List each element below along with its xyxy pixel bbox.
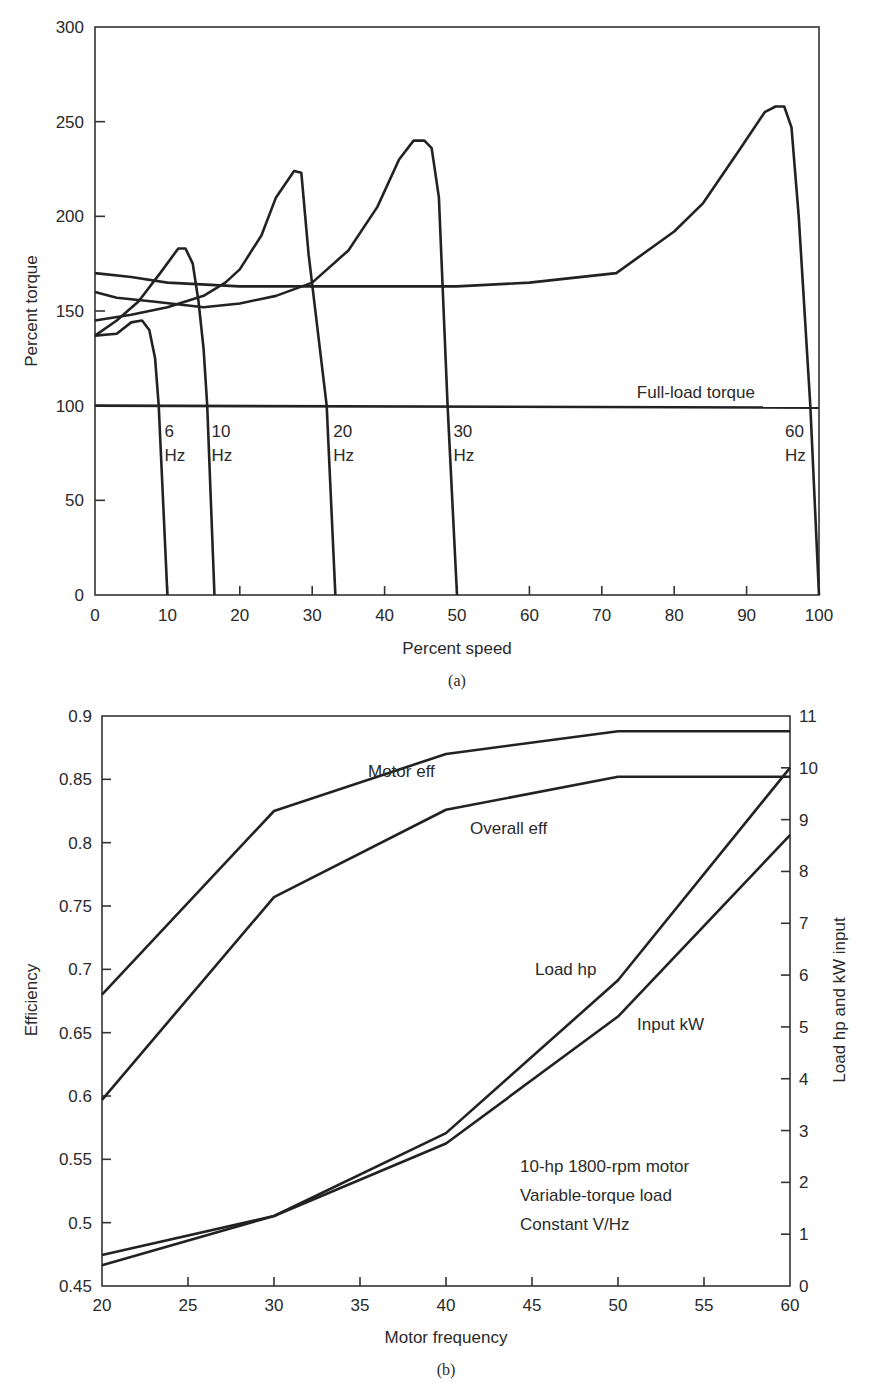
plot-frame-a xyxy=(95,27,819,595)
x-tick-label: 70 xyxy=(592,606,611,625)
right-y-axis-label-b: Load hp and kW input xyxy=(830,917,849,1083)
y-axis-ticks-a: 050100150200250300 xyxy=(56,18,105,605)
x-tick-label: 80 xyxy=(665,606,684,625)
full-load-torque-label: Full-load torque xyxy=(637,383,755,402)
y-tick-label: 50 xyxy=(65,491,84,510)
x-tick-label: 25 xyxy=(179,1296,198,1315)
x-tick-label: 40 xyxy=(437,1296,456,1315)
y-tick-label: 0.75 xyxy=(59,897,92,916)
curve-20-hz xyxy=(95,171,335,595)
curve-motor-eff xyxy=(102,731,790,994)
left-y-axis-ticks-b: 0.450.50.550.60.650.70.750.80.850.9 xyxy=(59,707,111,1296)
frequency-label-number: 10 xyxy=(212,422,231,441)
curve-30-hz xyxy=(95,141,457,595)
series-label-load-hp: Load hp xyxy=(535,960,596,979)
y-tick-label: 0.6 xyxy=(68,1087,92,1106)
x-axis-label-b: Motor frequency xyxy=(385,1328,508,1347)
frequency-label-unit: Hz xyxy=(333,446,354,465)
x-tick-label: 45 xyxy=(523,1296,542,1315)
right-y-tick-label: 4 xyxy=(799,1070,808,1089)
frequency-label-unit: Hz xyxy=(165,446,186,465)
right-y-tick-label: 11 xyxy=(799,707,817,726)
curve-overall-eff xyxy=(102,777,790,1100)
x-axis-ticks-b: 202530354045505560 xyxy=(93,1277,800,1315)
y-tick-label: 200 xyxy=(56,207,84,226)
caption-a: (a) xyxy=(448,672,466,690)
series-label-motor-eff: Motor eff xyxy=(368,762,435,781)
x-tick-label: 60 xyxy=(781,1296,800,1315)
right-y-tick-label: 1 xyxy=(799,1225,808,1244)
x-tick-label: 20 xyxy=(93,1296,112,1315)
right-y-axis-ticks-b: 01234567891011 xyxy=(781,707,818,1296)
series-label-overall-eff: Overall eff xyxy=(470,819,547,838)
torque-speed-chart: 050100150200250300 010203040506070809010… xyxy=(22,18,833,690)
right-y-tick-label: 7 xyxy=(799,914,808,933)
x-tick-label: 30 xyxy=(265,1296,284,1315)
frequency-label-number: 6 xyxy=(165,422,174,441)
y-tick-label: 0.65 xyxy=(59,1024,92,1043)
curve-load-hp xyxy=(102,768,790,1255)
x-tick-label: 0 xyxy=(90,606,99,625)
x-axis-ticks-a: 0102030405060708090100 xyxy=(90,586,833,625)
y-tick-label: 250 xyxy=(56,113,84,132)
efficiency-frequency-chart: 0.450.50.550.60.650.70.750.80.850.9 0123… xyxy=(22,707,849,1379)
x-tick-label: 90 xyxy=(737,606,756,625)
right-y-tick-label: 10 xyxy=(799,759,818,778)
caption-b: (b) xyxy=(437,1361,456,1379)
y-tick-label: 0.85 xyxy=(59,770,92,789)
frequency-label-unit: Hz xyxy=(453,446,474,465)
x-tick-label: 10 xyxy=(158,606,177,625)
efficiency-power-curves xyxy=(102,731,790,1265)
right-y-tick-label: 8 xyxy=(799,862,808,881)
x-tick-label: 40 xyxy=(375,606,394,625)
figure: 050100150200250300 010203040506070809010… xyxy=(0,0,869,1397)
frequency-label-unit: Hz xyxy=(785,446,806,465)
y-tick-label: 0.8 xyxy=(68,834,92,853)
torque-curves xyxy=(95,107,819,595)
y-tick-label: 0.7 xyxy=(68,960,92,979)
x-axis-label-a: Percent speed xyxy=(402,639,512,658)
y-tick-label: 0.45 xyxy=(59,1277,92,1296)
frequency-label-number: 20 xyxy=(333,422,352,441)
annotation-line-3: Constant V/Hz xyxy=(520,1215,630,1234)
right-y-tick-label: 5 xyxy=(799,1018,808,1037)
x-tick-label: 20 xyxy=(230,606,249,625)
right-y-tick-label: 0 xyxy=(799,1277,808,1296)
y-tick-label: 0 xyxy=(75,586,84,605)
right-y-tick-label: 6 xyxy=(799,966,808,985)
x-tick-label: 50 xyxy=(448,606,467,625)
y-tick-label: 0.55 xyxy=(59,1150,92,1169)
frequency-label-unit: Hz xyxy=(212,446,233,465)
x-tick-label: 50 xyxy=(609,1296,628,1315)
right-y-tick-label: 9 xyxy=(799,811,808,830)
x-tick-label: 100 xyxy=(805,606,833,625)
right-y-tick-label: 3 xyxy=(799,1122,808,1141)
right-y-tick-label: 2 xyxy=(799,1173,808,1192)
y-tick-label: 0.5 xyxy=(68,1214,92,1233)
frequency-label-number: 30 xyxy=(453,422,472,441)
plot-frame-b xyxy=(102,716,790,1286)
y-tick-label: 100 xyxy=(56,397,84,416)
y-tick-label: 300 xyxy=(56,18,84,37)
y-tick-label: 150 xyxy=(56,302,84,321)
x-tick-label: 60 xyxy=(520,606,539,625)
frequency-labels: 6Hz10Hz20Hz30Hz60Hz xyxy=(165,422,806,465)
annotation-line-2: Variable-torque load xyxy=(520,1186,672,1205)
x-tick-label: 35 xyxy=(351,1296,370,1315)
frequency-label-number: 60 xyxy=(785,422,804,441)
y-axis-label-a: Percent torque xyxy=(22,255,41,367)
full-load-torque-line xyxy=(95,406,819,408)
annotation-line-1: 10-hp 1800-rpm motor xyxy=(520,1157,689,1176)
y-tick-label: 0.9 xyxy=(68,707,92,726)
x-tick-label: 55 xyxy=(695,1296,714,1315)
series-label-input-kw: Input kW xyxy=(637,1015,704,1034)
curve-6-hz xyxy=(95,320,167,595)
y-axis-label-b: Efficiency xyxy=(22,963,41,1036)
x-tick-label: 30 xyxy=(303,606,322,625)
curve-input-kw xyxy=(102,835,790,1265)
